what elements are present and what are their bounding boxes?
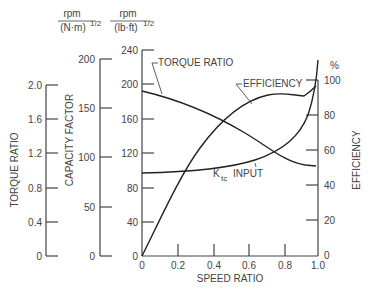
svg-text:40: 40	[324, 180, 336, 191]
speed-ratio-label: SPEED RATIO	[197, 273, 264, 284]
svg-text:0.4: 0.4	[207, 260, 221, 271]
efficiency-axis-label: EFFICIENCY	[351, 130, 362, 190]
svg-text:40: 40	[127, 217, 139, 228]
ktc-input-curve	[142, 60, 318, 173]
svg-text:0: 0	[324, 250, 330, 261]
svg-text:2.0: 2.0	[28, 80, 42, 91]
svg-text:0: 0	[132, 251, 138, 262]
svg-text:0.4: 0.4	[28, 217, 42, 228]
svg-text:0: 0	[89, 251, 95, 262]
svg-text:1/2: 1/2	[90, 19, 102, 28]
speed-ratio-axis: 0 0.2 0.4 0.6 0.8 1.0 SPEED RATIO	[139, 244, 325, 284]
svg-text:100: 100	[324, 75, 341, 86]
svg-text:0.2: 0.2	[171, 260, 185, 271]
svg-text:50: 50	[84, 202, 96, 213]
svg-text:60: 60	[324, 145, 336, 156]
svg-text:0: 0	[139, 260, 145, 271]
svg-text:EFFICIENCY: EFFICIENCY	[243, 78, 303, 89]
svg-text:120: 120	[121, 148, 138, 159]
svg-text:1.6: 1.6	[28, 114, 42, 125]
svg-text:(lb·ft): (lb·ft)	[114, 22, 137, 33]
svg-text:1.0: 1.0	[311, 260, 325, 271]
svg-text:200: 200	[121, 79, 138, 90]
torque-ratio-curve	[142, 91, 316, 166]
svg-text:0.8: 0.8	[278, 260, 292, 271]
efficiency-annotation: EFFICIENCY	[236, 78, 303, 104]
capacity-factor-axis: 200 150 100 50 0 CAPACITY FACTOR	[64, 54, 112, 262]
svg-text:K: K	[213, 168, 220, 179]
torque-ratio-annotation: TORQUE RATIO	[152, 57, 233, 94]
svg-text:160: 160	[121, 114, 138, 125]
torque-ratio-axis-label: TORQUE RATIO	[9, 132, 20, 207]
efficiency-curve	[142, 86, 316, 256]
svg-text:0: 0	[36, 251, 42, 262]
svg-text:%: %	[330, 60, 339, 71]
svg-text:INPUT: INPUT	[233, 168, 263, 179]
svg-text:80: 80	[127, 183, 139, 194]
svg-text:TORQUE RATIO: TORQUE RATIO	[158, 57, 233, 68]
svg-text:1/2: 1/2	[143, 19, 155, 28]
svg-text:tc: tc	[221, 174, 227, 183]
torque-ratio-axis: 2.0 1.6 1.2 0.8 0.4 0 TORQUE RATIO	[9, 80, 58, 262]
svg-text:200: 200	[78, 54, 95, 65]
unit-header-us: rpm (lb·ft) 1/2	[110, 8, 155, 33]
svg-text:0.8: 0.8	[28, 183, 42, 194]
svg-text:rpm: rpm	[63, 8, 80, 19]
svg-text:20: 20	[324, 215, 336, 226]
svg-text:0.6: 0.6	[242, 260, 256, 271]
unit-header-si: rpm (N·m) 1/2	[58, 8, 102, 33]
svg-text:100: 100	[78, 152, 95, 163]
svg-text:rpm: rpm	[119, 8, 136, 19]
svg-text:150: 150	[78, 103, 95, 114]
svg-text:(N·m): (N·m)	[60, 22, 86, 33]
svg-text:1.2: 1.2	[28, 148, 42, 159]
svg-text:240: 240	[121, 45, 138, 56]
capacity-factor-axis-label: CAPACITY FACTOR	[64, 94, 75, 186]
ktc-input-annotation: K tc INPUT	[213, 163, 263, 183]
torque-converter-chart: rpm (N·m) 1/2 rpm (lb·ft) 1/2 2.0 1.6 1.…	[0, 0, 370, 293]
svg-text:80: 80	[324, 110, 336, 121]
main-left-axis: 240 200 160 120 80 40 0	[121, 45, 154, 262]
